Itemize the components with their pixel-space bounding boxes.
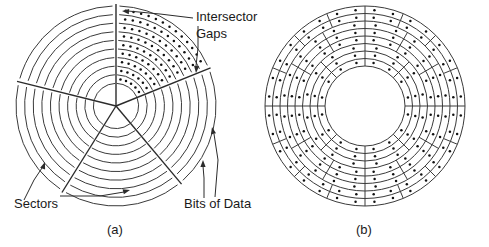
data-bit: [416, 145, 419, 148]
data-bit: [139, 21, 142, 24]
data-bit: [372, 16, 375, 19]
track-arc: [148, 89, 164, 142]
data-bit: [130, 37, 133, 40]
data-bit: [460, 95, 463, 98]
data-bit: [170, 49, 173, 52]
track-arc: [177, 75, 207, 174]
data-bit: [374, 54, 377, 57]
data-bit: [307, 173, 310, 176]
data-bit: [306, 93, 309, 96]
data-bit: [336, 197, 339, 200]
data-bit: [409, 163, 412, 166]
track-arc: [171, 78, 198, 168]
data-bit: [421, 93, 424, 96]
zone-2-sector-divider: [398, 185, 404, 199]
track-arc: [118, 58, 161, 87]
track-arc: [61, 49, 114, 90]
data-bit: [285, 147, 288, 150]
data-bit: [173, 40, 176, 43]
data-bit: [432, 48, 435, 51]
data-bit: [372, 39, 375, 42]
data-bit: [157, 73, 160, 76]
data-bit: [442, 63, 445, 66]
data-bit: [175, 55, 178, 58]
data-bit: [313, 115, 316, 118]
data-bit: [192, 64, 195, 67]
data-bit: [298, 96, 301, 99]
track-arc: [100, 131, 135, 138]
data-bit: [319, 46, 322, 49]
data-bit: [437, 114, 440, 117]
data-bit: [409, 20, 412, 23]
data-bit: [355, 62, 358, 64]
data-bit: [168, 59, 171, 62]
data-bit: [354, 155, 357, 158]
data-bit: [160, 30, 163, 33]
data-bit: [175, 30, 178, 33]
data-bit: [439, 136, 442, 139]
data-bit: [180, 61, 183, 64]
data-bit: [291, 114, 294, 117]
data-bit: [279, 79, 282, 82]
zone-2-sector-divider: [327, 185, 333, 199]
data-bit: [306, 116, 309, 119]
data-bit: [428, 154, 431, 157]
data-bit: [283, 115, 286, 118]
data-bit: [354, 178, 357, 181]
data-bit: [155, 58, 158, 61]
data-bit: [295, 48, 298, 51]
track-circle: [325, 66, 405, 146]
data-bit: [406, 76, 409, 79]
data-bit: [123, 35, 126, 38]
data-bit: [322, 183, 325, 186]
data-bit: [460, 114, 463, 117]
data-bit: [172, 65, 175, 68]
data-bit: [299, 55, 302, 58]
data-bit: [355, 39, 358, 42]
data-bit: [336, 13, 339, 16]
data-bit: [396, 56, 399, 59]
data-bit: [352, 162, 355, 165]
data-bit: [331, 56, 334, 59]
data-bit: [130, 82, 133, 85]
track-arc: [66, 185, 178, 206]
data-bit: [127, 62, 130, 64]
data-bit: [162, 21, 165, 24]
data-bit: [390, 190, 393, 193]
caption-b: (b): [356, 222, 372, 237]
track-arc: [93, 101, 103, 124]
track-arc: [94, 83, 115, 99]
data-bit: [149, 77, 152, 80]
data-bit: [432, 133, 435, 136]
data-bit: [444, 115, 447, 118]
data-bit: [298, 113, 301, 116]
track-arc: [137, 95, 147, 129]
data-bit: [437, 95, 440, 98]
data-bit: [142, 82, 145, 85]
data-bit: [138, 30, 141, 33]
data-bit: [121, 61, 124, 64]
data-bit: [449, 79, 452, 82]
data-bit: [147, 63, 150, 66]
zone-2-sector-divider: [273, 68, 287, 74]
data-bit: [285, 63, 288, 66]
data-bit: [406, 26, 409, 29]
data-bit: [126, 71, 129, 74]
label-intersector-gaps-line1: Intersector: [196, 9, 258, 24]
data-bit: [305, 150, 308, 153]
data-bit: [389, 44, 392, 47]
data-bit: [295, 161, 298, 164]
data-bit: [144, 41, 147, 44]
data-bit: [275, 113, 278, 116]
data-bit: [425, 79, 428, 82]
data-bit: [413, 137, 416, 140]
data-bit: [123, 27, 126, 30]
data-bit: [452, 96, 455, 99]
zone-2-sector-divider: [398, 14, 404, 28]
data-bit: [145, 87, 148, 90]
zone-2-sector-divider: [444, 68, 458, 74]
data-bit: [132, 74, 135, 77]
data-bit: [421, 116, 424, 119]
data-bit: [353, 185, 356, 188]
data-bit: [137, 77, 140, 80]
